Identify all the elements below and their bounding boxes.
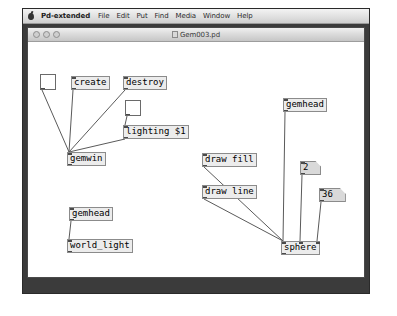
outlet[interactable] [72, 88, 76, 90]
apple-logo-icon[interactable] [27, 11, 35, 21]
patch-window-title: Gem003.pd [180, 31, 220, 39]
menu-item-edit[interactable]: Edit [116, 12, 129, 20]
patch-wire[interactable] [204, 199, 283, 241]
patch-wire[interactable] [204, 167, 283, 241]
patch-node-msg-destroy[interactable]: destroy [123, 76, 167, 90]
outlet[interactable] [124, 88, 128, 90]
inlet[interactable] [320, 189, 324, 191]
patch-window-title-group: Gem003.pd [28, 31, 364, 39]
patch-node-obj-sphere[interactable]: sphere [281, 241, 320, 255]
patch-node-num-2[interactable]: 2 [300, 161, 321, 175]
outlet[interactable] [68, 164, 72, 166]
patch-node-label: draw fill [205, 154, 254, 164]
inlet[interactable] [124, 126, 128, 128]
outlet[interactable] [126, 114, 130, 116]
patch-node-msg-create[interactable]: create [71, 76, 110, 90]
outlet[interactable] [320, 200, 324, 202]
patch-wire[interactable] [69, 221, 71, 239]
patch-node-obj-worldlight[interactable]: world_light [67, 239, 133, 253]
outlet[interactable] [68, 251, 72, 253]
menu-app-name[interactable]: Pd-extended [41, 12, 90, 20]
patch-wire[interactable] [42, 90, 69, 152]
inlet[interactable] [68, 153, 72, 155]
outlet[interactable] [203, 197, 207, 199]
outlet[interactable] [70, 219, 74, 221]
inlet[interactable] [124, 77, 128, 79]
inlet[interactable] [282, 242, 286, 244]
patch-node-msg-lighting[interactable]: lighting $1 [123, 125, 189, 139]
patch-node-label: destroy [126, 77, 164, 87]
menu-item-find[interactable]: Find [155, 12, 169, 20]
patch-node-label: sphere [284, 242, 317, 252]
outlet[interactable] [124, 137, 128, 139]
document-icon [172, 31, 178, 38]
patch-node-label: lighting $1 [126, 126, 186, 136]
outlet[interactable] [203, 165, 207, 167]
outlet[interactable] [282, 253, 286, 255]
outlet[interactable] [284, 110, 288, 112]
patch-node-toggle-lighting[interactable] [125, 100, 141, 116]
menu-item-file[interactable]: File [98, 12, 109, 20]
outlet[interactable] [301, 173, 305, 175]
inlet[interactable] [70, 208, 74, 210]
patch-wire[interactable] [300, 175, 302, 241]
patch-node-label: world_light [70, 240, 130, 250]
patch-wire[interactable] [69, 139, 125, 152]
patch-node-label: gemhead [72, 208, 110, 218]
patch-node-obj-gemhead-l[interactable]: gemhead [69, 207, 113, 221]
patch-node-label: gemhead [286, 99, 324, 109]
menu-item-help[interactable]: Help [237, 12, 253, 20]
patch-node-label: create [74, 77, 107, 87]
patch-wire[interactable] [69, 90, 73, 152]
patch-node-label: draw line [205, 186, 254, 196]
global-menu-bar[interactable]: Pd-extended File Edit Put Find Media Win… [23, 9, 369, 24]
patch-window-titlebar[interactable]: Gem003.pd [28, 28, 364, 42]
inlet[interactable] [72, 77, 76, 79]
inlet[interactable] [203, 186, 207, 188]
inlet[interactable] [68, 240, 72, 242]
patch-node-msg-drawfill[interactable]: draw fill [202, 153, 257, 167]
inlet[interactable] [316, 242, 320, 244]
patch-node-obj-gemhead-r[interactable]: gemhead [283, 98, 327, 112]
patch-window: Gem003.pd createdestroylighting $1gemwin… [27, 27, 365, 278]
patch-node-num-36[interactable]: 36 [319, 188, 346, 202]
patch-node-label: 36 [322, 189, 333, 199]
patch-wire[interactable] [317, 202, 321, 241]
patch-node-msg-drawline[interactable]: draw line [202, 185, 257, 199]
inlet[interactable] [284, 99, 288, 101]
patch-wire[interactable] [69, 90, 125, 152]
screenshot-root: Pd-extended File Edit Put Find Media Win… [0, 0, 397, 316]
inlet[interactable] [301, 162, 305, 164]
outlet[interactable] [41, 88, 45, 90]
patch-node-obj-gemwin[interactable]: gemwin [67, 152, 106, 166]
patch-wire[interactable] [125, 116, 127, 125]
patch-node-toggle-create[interactable] [40, 74, 56, 90]
patch-node-label: 2 [303, 162, 308, 172]
menu-item-media[interactable]: Media [175, 12, 196, 20]
patch-wire[interactable] [283, 112, 285, 241]
menu-item-put[interactable]: Put [137, 12, 148, 20]
inlet[interactable] [299, 242, 303, 244]
patch-canvas[interactable]: createdestroylighting $1gemwingemheadwor… [28, 42, 364, 278]
menu-item-window[interactable]: Window [203, 12, 230, 20]
patch-node-label: gemwin [70, 153, 103, 163]
inlet[interactable] [203, 154, 207, 156]
